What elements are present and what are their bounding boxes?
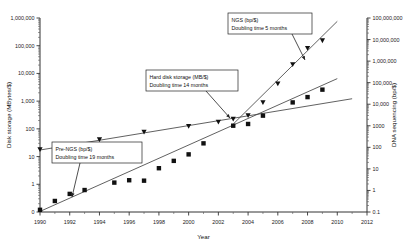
data-point-square bbox=[68, 192, 72, 196]
y-axis-title: Disk storage (MBytes/$) bbox=[5, 82, 12, 148]
callout-line2-pre-ngs: Doubling time 19 months bbox=[56, 154, 115, 160]
x-tick-label: 1994 bbox=[93, 219, 105, 225]
callout-arrow-hard-disk bbox=[206, 91, 230, 118]
callout-arrow-pre-ngs bbox=[72, 163, 80, 197]
chart-container: 01101001,00010,000100,0001,000,0000.1110… bbox=[0, 0, 406, 249]
y2-tick-label: 1,000,000 bbox=[373, 58, 397, 64]
x-tick-label: 2004 bbox=[242, 219, 254, 225]
trendline-ngs-trend bbox=[233, 21, 337, 124]
data-point-triangle bbox=[320, 38, 325, 43]
callout-line1-ngs: NGS (bp/$) bbox=[232, 17, 259, 23]
y2-tick-label: 10 bbox=[373, 166, 379, 172]
data-point-square bbox=[201, 141, 205, 145]
data-point-square bbox=[112, 180, 116, 184]
x-tick-label: 2012 bbox=[361, 219, 373, 225]
data-point-square bbox=[127, 178, 131, 182]
y-tick-label: 1,000,000 bbox=[11, 15, 35, 21]
y-tick-label: 100,000 bbox=[15, 43, 35, 49]
y2-tick-label: 100,000,000 bbox=[373, 15, 403, 21]
data-point-square bbox=[172, 159, 176, 163]
callout-arrow-ngs bbox=[292, 34, 305, 60]
data-point-triangle bbox=[260, 100, 265, 105]
data-point-square bbox=[261, 113, 265, 117]
data-point-square bbox=[38, 208, 42, 212]
y-tick-label: 1,000 bbox=[21, 98, 35, 104]
y-tick-label: 100 bbox=[26, 126, 35, 132]
data-point-triangle bbox=[186, 124, 191, 129]
y2-axis-title: DNA sequencing (bp/$) bbox=[390, 83, 397, 147]
data-point-square bbox=[290, 100, 294, 104]
y2-tick-label: 10,000,000 bbox=[373, 37, 400, 43]
data-point-square bbox=[82, 188, 86, 192]
data-point-square bbox=[186, 152, 190, 156]
x-tick-label: 1992 bbox=[64, 219, 76, 225]
data-point-square bbox=[231, 123, 235, 127]
data-point-square bbox=[53, 199, 57, 203]
data-point-triangle bbox=[290, 62, 295, 67]
data-point-square bbox=[305, 95, 309, 99]
y2-tick-label: 1000 bbox=[373, 123, 385, 129]
y-tick-label: 1 bbox=[32, 181, 35, 187]
callout-line2-hard-disk: Doubling time 14 months bbox=[150, 82, 209, 88]
callout-line1-pre-ngs: Pre-NGS (bp/$) bbox=[56, 146, 93, 152]
data-point-triangle bbox=[141, 130, 146, 135]
x-tick-label: 2002 bbox=[212, 219, 224, 225]
y2-tick-label: 0.1 bbox=[373, 209, 381, 215]
data-point-triangle bbox=[275, 81, 280, 86]
data-point-square bbox=[246, 122, 250, 126]
scatter-chart: 01101001,00010,000100,0001,000,0000.1110… bbox=[0, 0, 406, 249]
x-tick-label: 1996 bbox=[123, 219, 135, 225]
data-point-square bbox=[142, 178, 146, 182]
y-tick-label: 10,000 bbox=[18, 70, 35, 76]
y2-tick-label: 10,000 bbox=[373, 101, 390, 107]
x-tick-label: 1998 bbox=[153, 219, 165, 225]
callout-line1-hard-disk: Hard disk storage (MB/$) bbox=[150, 74, 209, 80]
data-point-triangle bbox=[231, 117, 236, 122]
y-tick-label: 0 bbox=[32, 209, 35, 215]
x-axis-title: Year bbox=[197, 233, 210, 240]
y2-tick-label: 1 bbox=[373, 187, 376, 193]
y-tick-label: 10 bbox=[29, 154, 35, 160]
y2-tick-label: 100 bbox=[373, 144, 382, 150]
data-point-square bbox=[320, 87, 324, 91]
x-tick-label: 2010 bbox=[331, 219, 343, 225]
x-tick-label: 2000 bbox=[183, 219, 195, 225]
x-tick-label: 2008 bbox=[302, 219, 314, 225]
x-tick-label: 1990 bbox=[34, 219, 46, 225]
series-dna-sequencing bbox=[37, 38, 325, 152]
x-tick-label: 2006 bbox=[272, 219, 284, 225]
data-point-triangle bbox=[216, 120, 221, 125]
data-point-square bbox=[157, 166, 161, 170]
callout-line2-ngs: Doubling time 5 months bbox=[232, 25, 288, 31]
